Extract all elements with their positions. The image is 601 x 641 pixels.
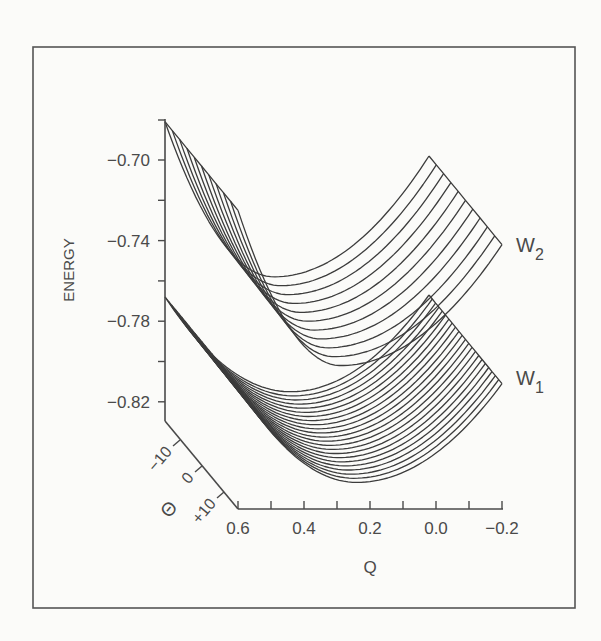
q-tick-label: 0.0: [424, 519, 448, 538]
q-tick-label: −0.2: [485, 519, 519, 538]
w1-surface: [165, 295, 502, 482]
surface-curve: [202, 166, 466, 321]
q-tick-label: 0.2: [358, 519, 382, 538]
q-axis-title: Q: [363, 558, 376, 577]
energy-axis-title: ENERGY: [60, 238, 77, 301]
surface-curve: [187, 148, 451, 303]
surface-curve: [180, 139, 444, 294]
surface-plot: [165, 122, 502, 483]
theta-axis: −100+10 Θ: [144, 421, 238, 527]
surface-curve: [238, 210, 502, 365]
q-axis: 0.60.40.20.0−0.2 Q: [226, 501, 519, 577]
w2-label: W2: [516, 234, 544, 263]
surface-curve: [223, 193, 487, 348]
figure: −0.70−0.74−0.78−0.82 ENERGY −100+10 Θ 0.…: [0, 0, 601, 641]
w2-surface: [165, 122, 502, 366]
theta-tick-label: 0: [178, 469, 197, 487]
surface-curve: [231, 202, 495, 357]
energy-tick-label: −0.74: [107, 232, 150, 251]
q-tick-label: 0.6: [226, 519, 250, 538]
surface-curve: [165, 122, 429, 277]
surface-edge: [429, 156, 502, 245]
w1-label: W1: [516, 367, 544, 396]
energy-tick-label: −0.70: [107, 151, 150, 170]
surface-edge: [165, 297, 238, 386]
surface-curve: [194, 157, 458, 312]
energy-tick-label: −0.82: [107, 393, 150, 412]
energy-tick-label: −0.78: [107, 312, 150, 331]
theta-axis-title: Θ: [156, 497, 182, 522]
q-tick-label: 0.4: [292, 519, 316, 538]
energy-axis: −0.70−0.74−0.78−0.82 ENERGY: [60, 119, 165, 421]
surface-curve: [172, 131, 436, 286]
theta-tick-label: −10: [144, 443, 175, 475]
theta-tick-label: +10: [188, 495, 219, 527]
surface-curve: [216, 184, 480, 339]
